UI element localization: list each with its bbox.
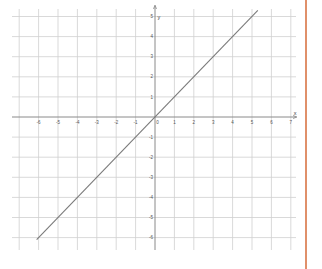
x-tick-label: 7 [290, 120, 293, 125]
x-tick-label: -1 [134, 120, 138, 125]
x-tick-label: -3 [95, 120, 99, 125]
x-tick-label: -4 [75, 120, 79, 125]
y-tick-label: -6 [149, 235, 153, 240]
x-tick-label: -2 [114, 120, 118, 125]
x-tick-label: 6 [270, 120, 273, 125]
y-tick-label: -5 [149, 215, 153, 220]
y-tick-label: -4 [149, 195, 153, 200]
x-tick-label: -6 [37, 120, 41, 125]
y-tick-label: -1 [149, 135, 153, 140]
y-tick-label: -3 [149, 175, 153, 180]
y-axis-label: y [158, 14, 161, 20]
x-tick-label: 2 [193, 120, 196, 125]
x-tick-label: 3 [212, 120, 215, 125]
line-series-y-equals-x [37, 10, 258, 239]
y-tick-label: -2 [149, 155, 153, 160]
graph-stage: -6-5-4-3-2-101234567-6-5-4-3-2-112345yx [0, 0, 322, 269]
coordinate-plane: -6-5-4-3-2-101234567-6-5-4-3-2-112345yx [0, 0, 322, 269]
x-tick-label: 1 [173, 120, 176, 125]
x-tick-label: 0 [156, 120, 159, 125]
x-tick-label: 5 [251, 120, 254, 125]
x-tick-label: 4 [231, 120, 234, 125]
x-tick-label: -5 [56, 120, 60, 125]
x-axis-label: x [294, 110, 297, 116]
page-border [305, 0, 307, 269]
